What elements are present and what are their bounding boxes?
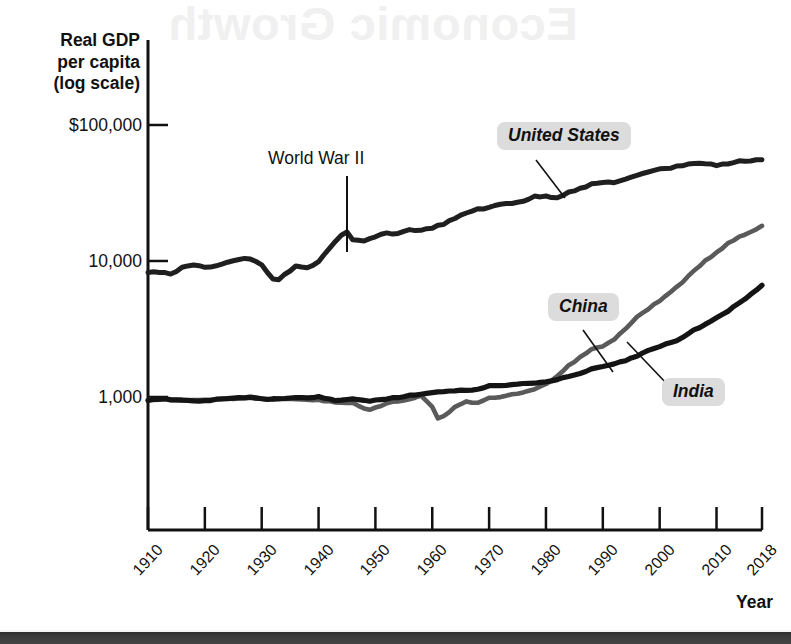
chart-figure: Economic Growth Real GDP per capita (log…	[0, 0, 791, 644]
y-tick-label: 1,000	[12, 387, 142, 408]
y-tick-label: 10,000	[12, 251, 142, 272]
annotation-world-war-ii: World War II	[268, 148, 364, 169]
leader-line-united-states	[536, 160, 565, 198]
page-bottom-edge	[0, 632, 791, 644]
annotation-leader-lines	[347, 160, 668, 385]
y-axis-ticks	[148, 125, 168, 397]
y-tick-label: $100,000	[12, 115, 142, 136]
series-label-china: China	[548, 293, 619, 321]
series-line-united-states	[148, 160, 762, 280]
axis-lines	[148, 40, 762, 530]
series-label-united-states: United States	[497, 122, 631, 150]
series-label-india: India	[662, 378, 725, 406]
x-axis-ticks	[148, 507, 762, 530]
